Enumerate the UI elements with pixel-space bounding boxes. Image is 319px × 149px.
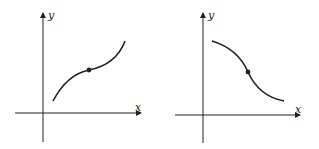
y-axis-label: y <box>47 9 55 22</box>
graph-right: y x <box>175 9 302 143</box>
graph-left: y x <box>15 9 142 142</box>
inflection-point <box>246 70 251 75</box>
y-axis-label: y <box>207 9 215 22</box>
diagram: y x y x <box>0 0 319 149</box>
inflection-point <box>87 68 92 73</box>
x-axis-label: x <box>135 101 142 114</box>
x-axis-label: x <box>295 103 302 116</box>
